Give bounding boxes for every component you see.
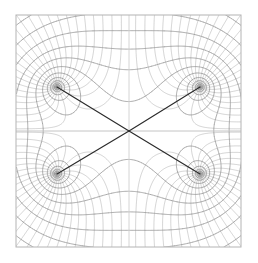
conformal-grid-plot [0,0,258,263]
figure-root [0,0,258,263]
